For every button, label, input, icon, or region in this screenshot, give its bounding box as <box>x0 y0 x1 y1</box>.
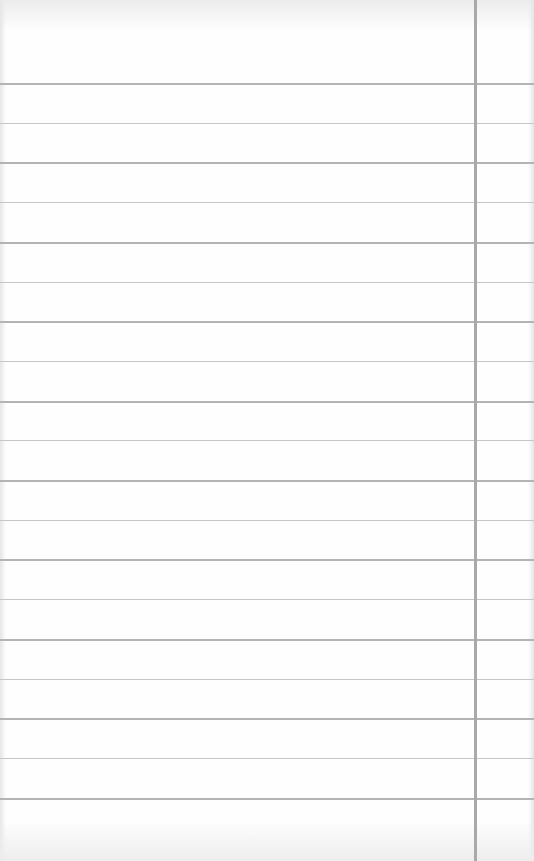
paper-edge-shadow-bottom <box>0 821 534 861</box>
ruled-line <box>0 639 534 641</box>
ruled-line <box>0 123 534 124</box>
ruled-line <box>0 718 534 720</box>
ruled-line <box>0 242 534 244</box>
paper-edge-shadow-right <box>528 0 534 861</box>
ruled-line <box>0 798 534 800</box>
ruled-line <box>0 162 534 164</box>
margin-line <box>474 0 477 861</box>
ruled-line <box>0 679 534 680</box>
ruled-line <box>0 202 534 203</box>
ruled-line <box>0 520 534 521</box>
ruled-line <box>0 559 534 561</box>
paper-edge-shadow-top <box>0 0 534 30</box>
paper-edge-shadow-left <box>0 0 6 861</box>
ruled-line <box>0 599 534 600</box>
ruled-line <box>0 282 534 283</box>
ruled-line <box>0 83 534 85</box>
ruled-line <box>0 401 534 403</box>
ruled-line <box>0 480 534 482</box>
ruled-line <box>0 440 534 441</box>
ruled-line <box>0 321 534 323</box>
ruled-line <box>0 758 534 759</box>
ruled-line <box>0 361 534 362</box>
lined-paper <box>0 0 534 861</box>
